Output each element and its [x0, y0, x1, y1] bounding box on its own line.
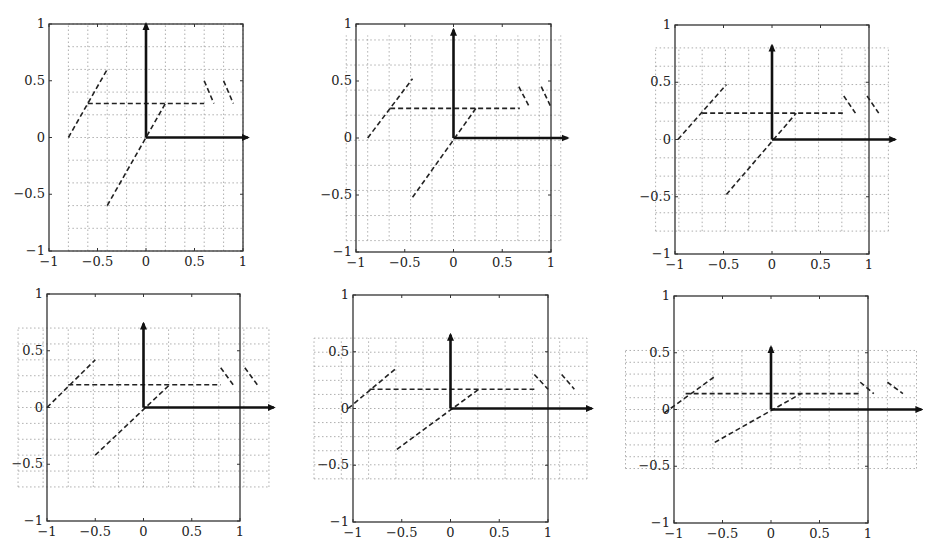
y-tick-label: 1	[37, 16, 45, 31]
y-tick-label: 1	[662, 288, 670, 303]
subplot-4: −1−1−0.5−0.5000.50.511	[11, 286, 273, 539]
x-tick-label: 1	[239, 254, 247, 269]
figure-grid: −1−1−0.5−0.5000.50.511−1−1−0.5−0.5000.50…	[0, 0, 927, 555]
x-tick-label: 0	[139, 524, 147, 539]
x-tick-label: 0	[767, 526, 775, 541]
y-tick-label: −0.5	[638, 458, 670, 473]
dashed-segment	[678, 85, 727, 140]
x-tick-label: 0	[768, 257, 776, 272]
y-tick-label: 1	[344, 16, 352, 31]
x-tick-label: 1	[547, 255, 555, 270]
subplot-2: −1−1−0.5−0.5000.50.511	[320, 16, 567, 270]
x-tick-label: 0.5	[181, 524, 202, 539]
y-tick-label: 0	[35, 400, 43, 415]
figure-canvas: −1−1−0.5−0.5000.50.511−1−1−0.5−0.5000.50…	[0, 0, 927, 555]
y-tick-label: 0.5	[331, 73, 352, 88]
dashed-segment	[95, 385, 169, 455]
x-tick-label: −0.5	[79, 524, 111, 539]
x-tick-label: −0.5	[82, 254, 114, 269]
x-tick-label: 0	[446, 525, 454, 540]
y-tick-label: −0.5	[317, 457, 349, 472]
y-tick-label: −0.5	[320, 187, 352, 202]
dashed-segment	[887, 382, 903, 393]
dashed-segment	[348, 368, 397, 409]
y-tick-label: 1	[35, 286, 43, 301]
x-tick-label: 1	[864, 526, 872, 541]
y-tick-label: −0.5	[11, 456, 43, 471]
x-tick-label: 1	[236, 524, 244, 539]
dashed-segment	[519, 87, 530, 108]
x-tick-label: −0.5	[386, 525, 418, 540]
y-tick-label: 0.5	[24, 73, 45, 88]
y-tick-label: 1	[341, 287, 349, 302]
dashed-segment	[541, 87, 551, 108]
y-tick-label: 0.5	[328, 344, 349, 359]
dashed-segment	[397, 389, 479, 449]
y-tick-label: 0.5	[650, 74, 671, 89]
subplot-5: −1−1−0.5−0.5000.50.511	[314, 287, 592, 540]
x-tick-label: −0.5	[708, 257, 740, 272]
x-tick-label: 0.5	[184, 254, 205, 269]
x-tick-label: 0	[449, 255, 457, 270]
y-tick-label: −0.5	[639, 189, 671, 204]
x-tick-label: −0.5	[707, 526, 739, 541]
y-tick-label: −1	[26, 243, 45, 258]
y-tick-label: −1	[652, 246, 671, 261]
subplot-6: −1−1−0.5−0.5000.50.511	[626, 288, 922, 541]
dashed-segment	[413, 108, 476, 197]
y-tick-label: 0	[37, 130, 45, 145]
y-tick-label: −0.5	[13, 186, 45, 201]
x-tick-label: −0.5	[389, 255, 421, 270]
x-tick-label: 0.5	[809, 526, 830, 541]
x-tick-label: 0	[142, 254, 150, 269]
y-tick-label: −1	[24, 513, 43, 528]
dashed-segment	[107, 103, 165, 205]
x-tick-label: 0.5	[810, 257, 831, 272]
dashed-segment	[221, 368, 234, 385]
dashed-segment	[245, 368, 258, 385]
y-tick-label: 0.5	[649, 345, 670, 360]
y-tick-label: 0	[344, 130, 352, 145]
dashed-segment	[562, 374, 575, 389]
y-tick-label: 0	[663, 132, 671, 147]
dashed-segment	[715, 394, 801, 443]
x-tick-label: 1	[544, 525, 552, 540]
dashed-segment	[844, 96, 856, 113]
x-tick-label: 1	[865, 257, 873, 272]
y-tick-label: 0	[662, 402, 670, 417]
y-tick-label: 0.5	[22, 343, 43, 358]
y-tick-label: −1	[330, 514, 349, 529]
dashed-segment	[726, 113, 796, 194]
dashed-segment	[860, 382, 874, 393]
y-tick-label: −1	[651, 515, 670, 530]
x-tick-label: 0.5	[489, 525, 510, 540]
subplot-3: −1−1−0.5−0.5000.50.511	[639, 17, 895, 272]
dashed-segment	[47, 360, 95, 408]
y-tick-label: 1	[663, 17, 671, 32]
dashed-segment	[664, 377, 714, 413]
dashed-segment	[534, 374, 548, 389]
x-tick-label: 0.5	[492, 255, 513, 270]
y-tick-label: −1	[333, 244, 352, 259]
subplot-1: −1−1−0.5−0.5000.50.511	[13, 16, 247, 269]
